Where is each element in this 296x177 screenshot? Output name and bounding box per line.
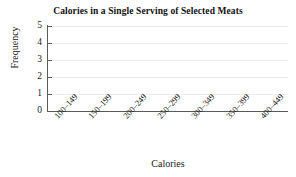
y-tick-label: 0 [28,106,42,116]
y-tick-label: 3 [28,55,42,65]
y-tick-label-text: 4 [28,38,42,48]
y-axis-label: Frequency [9,20,20,76]
chart-title: Calories in a Single Serving of Selected… [0,6,296,16]
y-tick-label-text: 3 [28,55,42,65]
y-tick-mark-4 [48,43,52,44]
gridline-y-4 [48,43,288,44]
y-tick-mark-1 [48,94,52,95]
gridline-y-5 [48,26,288,27]
y-tick-label: 5 [28,21,42,31]
x-axis-label: Calories [48,158,288,169]
y-tick-label-text: 1 [28,89,42,99]
y-tick-label: 4 [28,38,42,48]
y-tick-mark-2 [48,77,52,78]
y-tick-label-text: 2 [28,72,42,82]
y-tick-label-text: 5 [28,21,42,31]
y-axis-line [47,25,48,112]
gridline-y-2 [48,77,288,78]
gridline-y-3 [48,60,288,61]
y-tick-label: 1 [28,89,42,99]
gridline-y-1 [48,94,288,95]
y-tick-label-text: 0 [28,106,42,116]
y-tick-mark-3 [48,60,52,61]
y-tick-mark-5 [48,26,52,27]
frequency-histogram-chart: Calories in a Single Serving of Selected… [0,0,296,177]
y-tick-label: 2 [28,72,42,82]
y-tick-mark-0 [48,111,52,112]
